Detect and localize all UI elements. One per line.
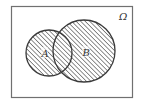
universe-label: Ω <box>118 11 127 22</box>
venn-diagram: A B Ω <box>0 0 144 105</box>
set-a-label: A <box>41 48 49 59</box>
set-b-label: B <box>82 47 90 58</box>
